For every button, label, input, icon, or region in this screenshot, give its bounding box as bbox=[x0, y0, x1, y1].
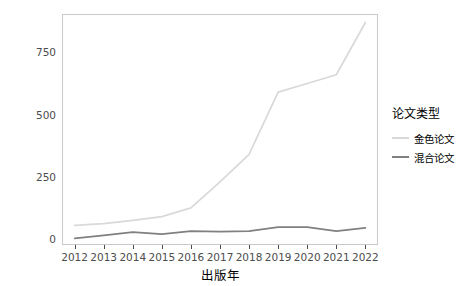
legend-label: 金色论文 bbox=[414, 131, 454, 146]
legend-key-line-icon bbox=[392, 131, 409, 145]
x-tick-mark bbox=[365, 245, 366, 249]
legend-item[interactable]: 金色论文 bbox=[392, 130, 472, 146]
x-tick-mark bbox=[220, 245, 221, 249]
x-axis-title: 出版年 bbox=[62, 265, 378, 284]
legend-key-line-icon bbox=[392, 150, 409, 164]
x-tick-mark bbox=[307, 245, 308, 249]
y-tick-label: 0 bbox=[22, 234, 56, 245]
plot-panel bbox=[62, 14, 378, 245]
series-line bbox=[75, 227, 366, 238]
x-tick-mark bbox=[191, 245, 192, 249]
legend-label: 混合论文 bbox=[414, 150, 454, 165]
y-axis-ticks: 0250500750 bbox=[20, 0, 56, 286]
x-tick-label: 2022 bbox=[345, 251, 385, 263]
x-tick-mark bbox=[249, 245, 250, 249]
x-tick-mark bbox=[133, 245, 134, 249]
y-tick-label: 750 bbox=[22, 47, 56, 58]
x-tick-mark bbox=[104, 245, 105, 249]
y-tick-label: 250 bbox=[22, 171, 56, 182]
x-tick-mark bbox=[336, 245, 337, 249]
series-line bbox=[75, 22, 366, 225]
legend-items: 金色论文混合论文 bbox=[392, 130, 472, 165]
y-tick-label: 500 bbox=[22, 109, 56, 120]
x-tick-mark bbox=[162, 245, 163, 249]
x-tick-mark bbox=[278, 245, 279, 249]
legend: 论文类型 金色论文混合论文 bbox=[392, 104, 472, 168]
legend-item[interactable]: 混合论文 bbox=[392, 149, 472, 165]
line-chart: APC费用（万元） 0250500750 2012201320142015201… bbox=[0, 0, 474, 286]
series-lines bbox=[63, 15, 377, 244]
legend-title: 论文类型 bbox=[392, 104, 472, 121]
x-tick-mark bbox=[75, 245, 76, 249]
